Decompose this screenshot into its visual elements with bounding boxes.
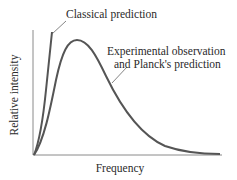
classical-annotation: Classical prediction [66, 8, 157, 20]
y-axis-label: Relative intensity [8, 55, 20, 136]
experimental-annotation-line2: and Planck's prediction [114, 58, 221, 70]
blackbody-chart [0, 0, 237, 180]
experimental-annotation-line1: Experimental observation [107, 45, 225, 57]
x-axis-label: Frequency [96, 162, 145, 174]
classical-pointer [52, 21, 66, 34]
